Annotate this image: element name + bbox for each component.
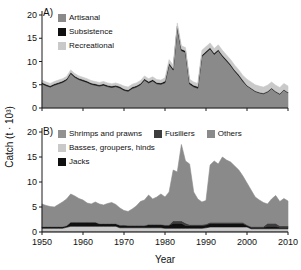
x-tick-label: 1950 [32,237,52,247]
subsistence-swatch-icon [58,28,66,36]
legend-row: Subsistence [58,25,114,39]
y-tick-label: 10 [27,177,37,187]
y-tick-label: 5 [32,80,37,90]
y-tick-label: 0 [32,103,37,113]
legend-label-subsistence: Subsistence [69,25,113,39]
x-tick-label: 2000 [237,237,257,247]
x-axis-label: Year [155,254,175,265]
legend-label-basses: Basses, groupers, hinds [69,141,155,155]
panel-a-label: A) [43,7,53,18]
x-tick-label: 2010 [278,237,298,247]
legend-row: Recreational [58,39,114,53]
legend-item-jacks: Jacks [58,155,89,169]
legend-label-shrimps: Shrimps and prawns [69,127,142,141]
legend-item-basses: Basses, groupers, hinds [58,141,155,155]
legend-label-others: Others [218,127,242,141]
shrimps-swatch-icon [58,130,66,138]
y-tick-label: 15 [27,33,37,43]
x-tick-label: 1990 [196,237,216,247]
legend-item-recreational: Recreational [58,39,114,53]
basses-swatch-icon [58,144,66,152]
legend-item-shrimps: Shrimps and prawns [58,127,142,141]
y-tick-label: 20 [27,127,37,137]
y-tick-label: 15 [27,152,37,162]
panel-b-label: B) [43,126,53,137]
fusiliers-swatch-icon [154,130,162,138]
legend-panel-a: Artisanal Subsistence Recreational [58,11,114,53]
others-swatch-icon [207,130,215,138]
x-tick-label: 1970 [114,237,134,247]
figure: 0510152005101520195019601970198019902000… [0,0,301,270]
legend-item-artisanal: Artisanal [58,11,100,25]
y-tick-label: 0 [32,227,37,237]
y-tick-label: 5 [32,202,37,212]
legend-item-fusiliers: Fusiliers [154,127,195,141]
legend-item-others: Others [207,127,242,141]
jacks-swatch-icon [58,158,66,166]
legend-row: Basses, groupers, hinds [58,141,293,155]
legend-label-fusiliers: Fusiliers [165,127,195,141]
legend-row: Artisanal [58,11,114,25]
legend-panel-b: Shrimps and prawns Fusiliers Others Bass… [58,127,293,169]
legend-item-subsistence: Subsistence [58,25,113,39]
recreational-swatch-icon [58,42,66,50]
legend-label-artisanal: Artisanal [69,11,100,25]
legend-label-recreational: Recreational [69,39,114,53]
x-tick-label: 1960 [73,237,93,247]
y-tick-label: 20 [27,10,37,20]
y-tick-label: 10 [27,57,37,67]
x-tick-label: 1980 [155,237,175,247]
y-axis-label: Catch (t · 10³) [4,106,15,168]
artisanal-swatch-icon [58,14,66,22]
legend-row: Jacks [58,155,293,169]
legend-row: Shrimps and prawns Fusiliers Others [58,127,293,141]
legend-label-jacks: Jacks [69,155,89,169]
